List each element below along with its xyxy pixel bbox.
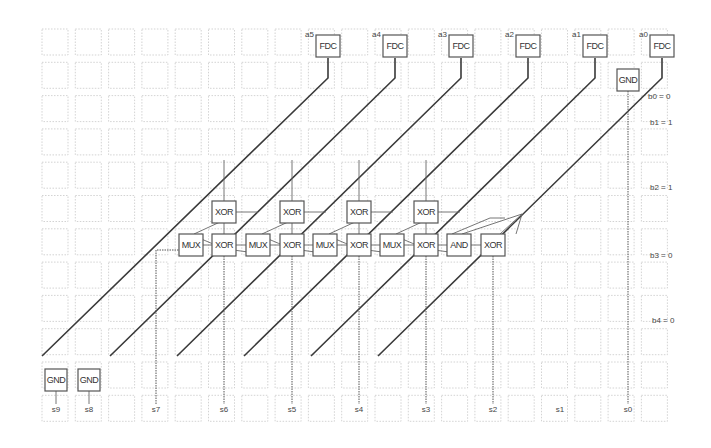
fdc-a0-label: FDC xyxy=(654,41,672,51)
grid-cell xyxy=(375,129,401,155)
grid-cell xyxy=(608,295,634,321)
gate-mid-1-xor: XOR xyxy=(212,234,236,256)
output-label-s9: s9 xyxy=(52,405,61,414)
grid-cell xyxy=(542,129,568,155)
grid-cell xyxy=(442,262,468,288)
grid-cell xyxy=(308,262,334,288)
grid-cell xyxy=(342,262,368,288)
gate-top-2-xor: XOR xyxy=(347,201,371,223)
gate-mid-3-xor: XOR xyxy=(280,234,304,256)
grid-cell xyxy=(42,196,68,222)
grid-cell xyxy=(308,362,334,388)
grid-cell xyxy=(142,262,168,288)
grid-cell xyxy=(575,229,601,255)
grid-cell xyxy=(275,29,301,55)
gate-mid-1-xor-label: XOR xyxy=(215,240,234,250)
grid-cell xyxy=(475,162,501,188)
grid-cell xyxy=(542,262,568,288)
grid-cell xyxy=(475,295,501,321)
input-label-a3: a3 xyxy=(438,30,447,39)
output-label-s6: s6 xyxy=(220,405,229,414)
gnd-s8: GND xyxy=(78,369,100,391)
fdc-a2: FDC xyxy=(516,35,540,57)
grid-cell xyxy=(242,329,268,355)
b-label-2: b2 = 1 xyxy=(650,183,673,192)
grid-cell xyxy=(375,262,401,288)
grid-cell xyxy=(209,62,235,88)
grid-cell xyxy=(542,29,568,55)
grid-cell xyxy=(442,196,468,222)
grid-cell xyxy=(608,329,634,355)
gate-mid-8-and-label: AND xyxy=(450,240,469,250)
grid-cell xyxy=(209,262,235,288)
grid-cell xyxy=(641,262,667,288)
grid-cell xyxy=(308,295,334,321)
grid-cell xyxy=(275,62,301,88)
grid-cell xyxy=(42,162,68,188)
gate-top-2-xor-label: XOR xyxy=(350,207,369,217)
gnd-top-label: GND xyxy=(619,75,639,85)
grid-cell xyxy=(242,96,268,122)
grid-cell xyxy=(442,96,468,122)
output-label-s7: s7 xyxy=(152,405,161,414)
grid-cell xyxy=(175,329,201,355)
gate-mid-4-mux: MUX xyxy=(313,234,337,256)
fdc-a5: FDC xyxy=(316,35,340,57)
grid-cell xyxy=(175,395,201,421)
gate-mid-6-mux-label: MUX xyxy=(383,240,402,250)
grid-cell xyxy=(275,262,301,288)
grid-cell xyxy=(508,362,534,388)
fdc-a5-label: FDC xyxy=(320,41,338,51)
grid-cell xyxy=(242,129,268,155)
grid-cell xyxy=(242,162,268,188)
grid-cell xyxy=(275,362,301,388)
grid-cell xyxy=(542,196,568,222)
gate-mid-6-mux: MUX xyxy=(380,234,404,256)
grid-cell xyxy=(575,96,601,122)
gate-mid-2-mux: MUX xyxy=(246,234,270,256)
fdc-a1-label: FDC xyxy=(587,41,605,51)
grid-cell xyxy=(442,295,468,321)
grid-cell xyxy=(175,129,201,155)
grid-cell xyxy=(542,62,568,88)
grid-cell xyxy=(342,62,368,88)
grid-cell xyxy=(109,262,135,288)
grid-cell xyxy=(508,229,534,255)
grid-cell xyxy=(408,162,434,188)
gate-top-3-xor-label: XOR xyxy=(417,207,436,217)
grid-cell xyxy=(42,29,68,55)
grid-cell xyxy=(575,196,601,222)
output-label-s3: s3 xyxy=(422,405,431,414)
grid-cell xyxy=(641,129,667,155)
grid-cell xyxy=(109,162,135,188)
output-label-s0: s0 xyxy=(624,405,633,414)
grid-cell xyxy=(175,96,201,122)
fdc-a3: FDC xyxy=(449,35,473,57)
grid-cell xyxy=(342,295,368,321)
grid-cell xyxy=(75,295,101,321)
grid-cell xyxy=(75,229,101,255)
gate-mid-2-mux-label: MUX xyxy=(249,240,268,250)
gate-mid-9-xor: XOR xyxy=(481,234,505,256)
fdc-a4: FDC xyxy=(383,35,407,57)
grid-cell xyxy=(475,62,501,88)
grid-cell xyxy=(42,62,68,88)
grid-cell xyxy=(109,395,135,421)
grid-cell xyxy=(608,129,634,155)
grid-cell xyxy=(175,362,201,388)
gnd-s8-label: GND xyxy=(80,375,100,385)
grid-cell xyxy=(42,96,68,122)
grid-cell xyxy=(308,395,334,421)
grid-cell xyxy=(242,395,268,421)
gate-mid-3-xor-label: XOR xyxy=(283,240,302,250)
grid-cell xyxy=(75,129,101,155)
grid-cell xyxy=(209,362,235,388)
grid-cell xyxy=(42,262,68,288)
grid-cell xyxy=(308,329,334,355)
grid-cell xyxy=(408,262,434,288)
gate-mid-5-xor-label: XOR xyxy=(350,240,369,250)
gate-mid-0-mux: MUX xyxy=(179,234,203,256)
grid-cell xyxy=(109,229,135,255)
grid-cell xyxy=(109,196,135,222)
grid-cell xyxy=(42,295,68,321)
